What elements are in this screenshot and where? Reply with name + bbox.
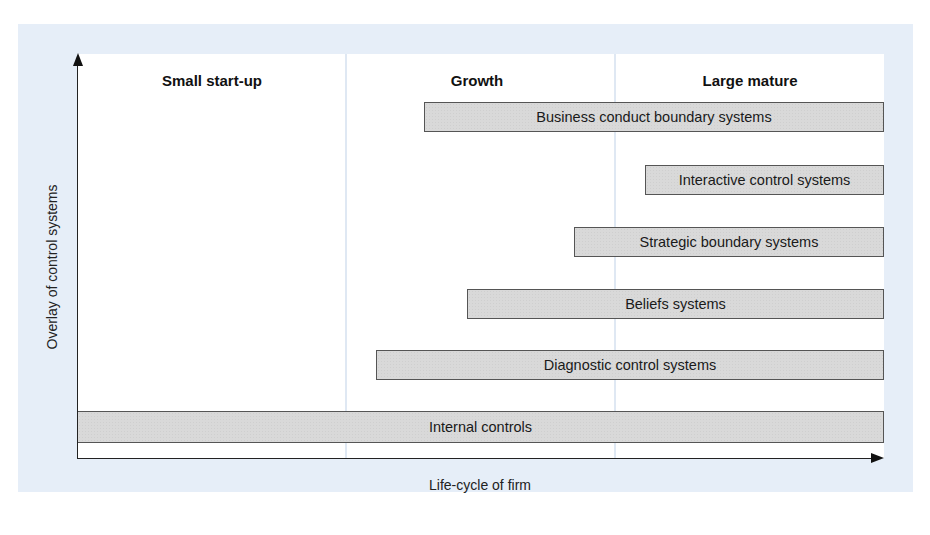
x-axis-line [77, 458, 873, 459]
bar-interactive-control-systems: Interactive control systems [645, 165, 884, 195]
bar-strategic-boundary-systems: Strategic boundary systems [574, 227, 884, 257]
stage-label-small-startup: Small start-up [162, 72, 262, 89]
stage-label-large-mature: Large mature [702, 72, 797, 89]
stage-label-growth: Growth [451, 72, 504, 89]
bar-internal-controls: Internal controls [77, 411, 884, 443]
x-axis-label: Life-cycle of firm [429, 477, 531, 493]
x-axis-arrow-icon [871, 453, 884, 463]
bar-diagnostic-control-systems: Diagnostic control systems [376, 350, 884, 380]
y-axis-line [77, 62, 78, 459]
bar-beliefs-systems: Beliefs systems [467, 289, 884, 319]
y-axis-label: Overlay of control systems [44, 185, 60, 350]
stage-divider-startup-growth [345, 54, 347, 458]
y-axis-arrow-icon [73, 53, 83, 66]
bar-business-conduct-boundary-systems: Business conduct boundary systems [424, 102, 884, 132]
